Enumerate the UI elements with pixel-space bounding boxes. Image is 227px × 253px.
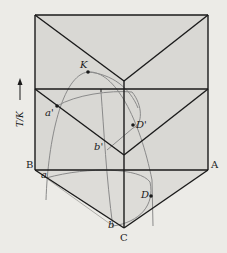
label-vertex-C: C [120, 232, 128, 243]
prism-diagram: K a' D' b' a b D B A C T/K [0, 0, 227, 253]
phase-diagram: K a' D' b' a b D B A C T/K [0, 0, 227, 253]
label-D-prime: D' [135, 119, 147, 130]
point-D-prime [131, 123, 135, 127]
back-face [35, 15, 208, 170]
base-face [35, 170, 208, 228]
point-a-prime [55, 104, 59, 108]
label-a: a [41, 169, 47, 180]
label-D: D [140, 189, 149, 200]
label-b: b [108, 219, 114, 230]
point-D [149, 194, 153, 198]
label-vertex-B: B [26, 159, 33, 170]
label-a-prime: a' [45, 107, 54, 118]
label-K: K [79, 59, 88, 70]
temperature-axis: T/K [15, 78, 25, 127]
label-vertex-A: A [210, 159, 219, 170]
label-b-prime: b' [94, 141, 103, 152]
axis-label-T: T/K [15, 110, 25, 127]
point-K [86, 70, 90, 74]
arrow-up-icon [18, 78, 23, 85]
